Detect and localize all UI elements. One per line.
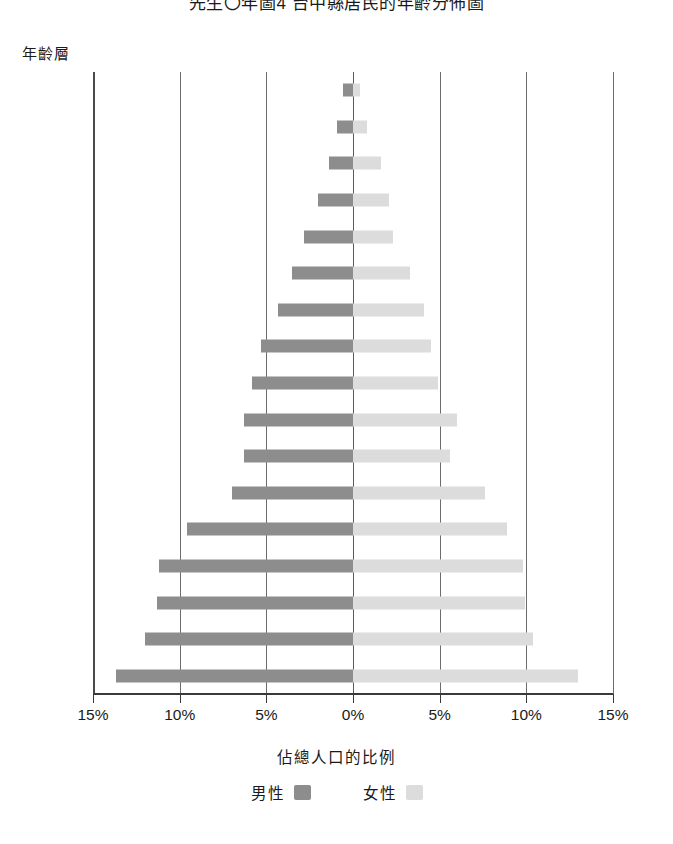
x-tick <box>440 694 441 703</box>
pyramid-row <box>93 255 613 292</box>
legend-item-male: 男性 <box>251 781 311 803</box>
legend-swatch-male-icon <box>294 785 311 800</box>
bar-male <box>343 84 353 97</box>
bar-female <box>353 669 578 682</box>
bar-male <box>244 450 353 463</box>
bar-group <box>93 669 613 682</box>
bar-group <box>93 340 613 353</box>
x-tick <box>93 694 94 703</box>
pyramid-row <box>93 548 613 585</box>
bar-male <box>292 267 353 280</box>
pyramid-row <box>93 511 613 548</box>
x-tick <box>180 694 181 703</box>
x-tick <box>613 694 614 703</box>
bar-male <box>244 413 353 426</box>
bar-female <box>353 450 450 463</box>
legend: 男性 女性 <box>0 781 673 803</box>
bar-male <box>145 633 353 646</box>
gridline-15-right <box>613 72 614 694</box>
pyramid-row <box>93 365 613 402</box>
pyramid-row <box>93 657 613 694</box>
pyramid-row <box>93 401 613 438</box>
bar-male <box>252 376 353 389</box>
bar-male <box>261 340 353 353</box>
bar-group <box>93 157 613 170</box>
bar-female <box>353 230 393 243</box>
bar-male <box>329 157 353 170</box>
legend-item-female: 女性 <box>363 781 423 803</box>
bar-female <box>353 340 431 353</box>
bar-male <box>278 303 353 316</box>
pyramid-row <box>93 109 613 146</box>
bar-male <box>116 669 353 682</box>
x-tick-label: 5% <box>405 706 475 724</box>
bar-group <box>93 230 613 243</box>
bar-group <box>93 376 613 389</box>
bar-group <box>93 267 613 280</box>
bar-male <box>159 559 353 572</box>
bar-male <box>232 486 353 499</box>
x-tick-label: 10% <box>491 706 561 724</box>
x-tick-label: 5% <box>231 706 301 724</box>
bar-female <box>353 633 533 646</box>
bar-male <box>337 120 353 133</box>
bar-group <box>93 523 613 536</box>
pyramid-row <box>93 438 613 475</box>
bar-female <box>353 413 457 426</box>
pyramid-row <box>93 328 613 365</box>
x-tick-label: 15% <box>578 706 648 724</box>
pyramid-row <box>93 72 613 109</box>
x-tick <box>526 694 527 703</box>
bar-group <box>93 559 613 572</box>
pyramid-row <box>93 145 613 182</box>
x-tick <box>353 694 354 703</box>
pyramid-row <box>93 182 613 219</box>
bar-male <box>318 194 353 207</box>
bar-male <box>157 596 353 609</box>
bar-female <box>353 194 389 207</box>
plot-area <box>93 72 613 694</box>
bar-female <box>353 303 424 316</box>
x-tick-label: 0% <box>318 706 388 724</box>
bar-female <box>353 486 485 499</box>
bar-group <box>93 633 613 646</box>
x-tick-label: 10% <box>145 706 215 724</box>
bar-group <box>93 194 613 207</box>
legend-label-female: 女性 <box>363 781 397 803</box>
bar-group <box>93 84 613 97</box>
x-tick <box>266 694 267 703</box>
x-axis-title: 佔總人口的比例 <box>0 745 673 767</box>
bar-female <box>353 559 523 572</box>
bar-female <box>353 120 367 133</box>
pyramid-row <box>93 584 613 621</box>
bar-female <box>353 84 360 97</box>
pyramid-row <box>93 474 613 511</box>
bar-male <box>187 523 353 536</box>
chart-title: 先生〇年圖4 台中縣居民的年齡分佈圖 <box>0 0 673 14</box>
bar-female <box>353 376 438 389</box>
bar-group <box>93 413 613 426</box>
bar-group <box>93 303 613 316</box>
bar-female <box>353 157 381 170</box>
bar-group <box>93 450 613 463</box>
bar-female <box>353 523 507 536</box>
bar-female <box>353 267 410 280</box>
legend-swatch-female-icon <box>406 785 423 800</box>
pyramid-row <box>93 621 613 658</box>
bar-group <box>93 486 613 499</box>
y-axis-title: 年齡層 <box>22 42 70 63</box>
bar-male <box>304 230 353 243</box>
bar-group <box>93 596 613 609</box>
pyramid-row <box>93 292 613 329</box>
bar-group <box>93 120 613 133</box>
legend-label-male: 男性 <box>251 781 285 803</box>
bar-female <box>353 596 525 609</box>
x-tick-label: 15% <box>58 706 128 724</box>
pyramid-row <box>93 218 613 255</box>
